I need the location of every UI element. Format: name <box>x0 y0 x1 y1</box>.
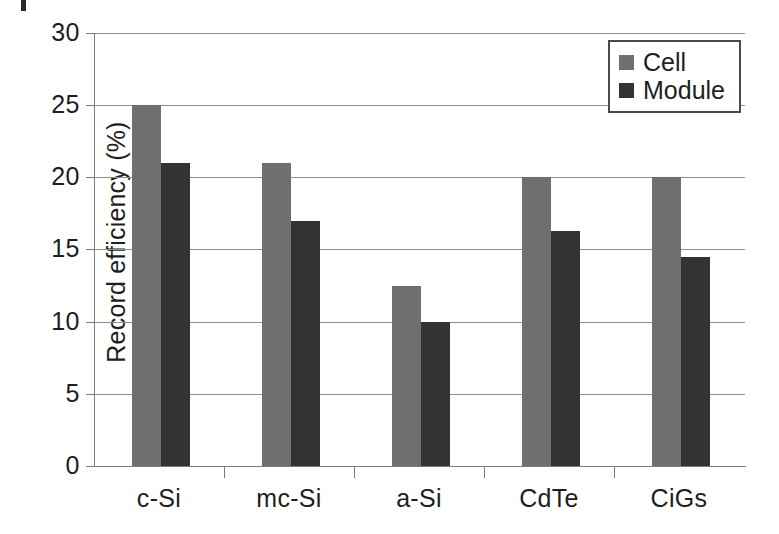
y-tick-label-15: 15 <box>34 236 80 261</box>
x-separator-1 <box>224 467 225 478</box>
y-tick-5 <box>86 394 95 395</box>
chart-figure: Record efficiency (%) 30 25 <box>0 0 779 534</box>
y-tick-15 <box>86 249 95 250</box>
y-tick-10 <box>86 322 95 323</box>
y-tick-30 <box>86 33 95 34</box>
x-separator-3 <box>484 467 485 478</box>
y-tick-label-5-wrap: 5 <box>24 381 80 407</box>
gridline-30 <box>94 33 745 34</box>
legend-entry-module: Module <box>619 76 725 104</box>
bar-module-a-Si <box>421 322 450 466</box>
bar-cell-CiGs <box>652 177 681 466</box>
y-tick-label-0-wrap: 0 <box>24 453 80 479</box>
bar-cell-mc-Si <box>262 163 291 466</box>
legend-entry-cell: Cell <box>619 48 725 76</box>
bar-module-mc-Si <box>291 221 320 466</box>
bar-module-CiGs <box>681 257 710 466</box>
y-tick-label-10: 10 <box>34 309 80 334</box>
legend-label-module: Module <box>643 77 725 103</box>
chart-legend: Cell Module <box>608 40 741 113</box>
y-tick-label-20-wrap: 20 <box>24 164 80 190</box>
x-tick-label-CdTe: CdTe <box>484 484 614 512</box>
module-swatch-icon <box>619 83 634 98</box>
cell-swatch-icon <box>619 55 634 70</box>
x-tick-label-mc-Si: mc-Si <box>224 484 354 512</box>
y-tick-label-25: 25 <box>34 92 80 117</box>
y-axis-title: Record efficiency (%) <box>103 32 129 452</box>
y-tick-25 <box>86 105 95 106</box>
gridline-15 <box>94 249 745 250</box>
y-tick-label-25-wrap: 25 <box>24 92 80 118</box>
legend-label-cell: Cell <box>643 49 686 75</box>
y-tick-label-30: 30 <box>34 20 80 45</box>
x-tick-label-c-Si: c-Si <box>94 484 224 512</box>
y-tick-label-10-wrap: 10 <box>24 309 80 335</box>
y-tick-20 <box>86 177 95 178</box>
y-tick-label-15-wrap: 15 <box>24 236 80 262</box>
y-tick-0 <box>86 466 95 467</box>
bar-module-CdTe <box>551 231 580 466</box>
gridline-20 <box>94 177 745 178</box>
x-separator-4 <box>614 467 615 478</box>
scan-artifact <box>21 0 26 11</box>
y-tick-label-30-wrap: 30 <box>24 20 80 46</box>
y-tick-label-20: 20 <box>34 164 80 189</box>
x-axis-line <box>94 466 746 467</box>
y-axis-line <box>94 33 95 467</box>
x-separator-2 <box>354 467 355 478</box>
y-tick-label-0: 0 <box>34 453 80 478</box>
x-tick-label-a-Si: a-Si <box>354 484 484 512</box>
bar-cell-a-Si <box>392 286 421 466</box>
bar-module-c-Si <box>161 163 190 466</box>
bar-cell-CdTe <box>522 177 551 466</box>
x-tick-label-CiGs: CiGs <box>614 484 744 512</box>
y-tick-label-5: 5 <box>34 381 80 406</box>
bar-cell-c-Si <box>132 105 161 466</box>
